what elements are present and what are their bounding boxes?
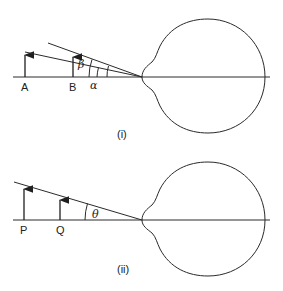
label-b: B xyxy=(69,81,76,93)
label-beta: β xyxy=(77,58,84,71)
eyeball xyxy=(142,19,265,133)
label-alpha: α xyxy=(90,79,98,92)
figure-i: A B α β (i) xyxy=(13,19,270,140)
ray-to-eye xyxy=(14,182,142,220)
angle-arc-beta xyxy=(89,60,92,78)
caption-ii: (ii) xyxy=(117,263,129,275)
label-a: A xyxy=(21,81,29,93)
angle-arc-alpha-1 xyxy=(107,66,109,77)
label-theta: θ xyxy=(92,208,99,221)
eyeball xyxy=(142,162,265,276)
figure-ii: P Q θ (ii) xyxy=(13,162,270,276)
label-p: P xyxy=(20,224,27,236)
angle-arc-theta xyxy=(85,204,88,221)
caption-i: (i) xyxy=(117,128,127,140)
angle-arc-alpha-2 xyxy=(97,68,99,78)
diagram-canvas: A B α β (i) P Q θ (ii) xyxy=(0,0,283,291)
label-q: Q xyxy=(56,224,65,236)
